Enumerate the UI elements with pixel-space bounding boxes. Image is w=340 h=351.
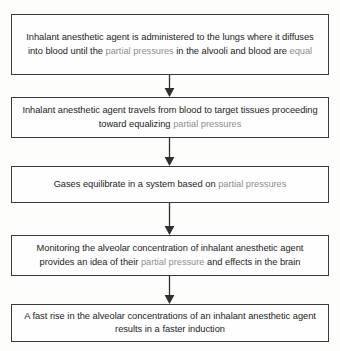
flow-node-1-text: Inhalant anesthetic agent is administere… <box>19 31 321 58</box>
highlighted-term: partial pressure <box>141 257 205 267</box>
flow-node-4: Monitoring the alveolar concentration of… <box>11 235 329 276</box>
flow-node-3: Gases equilibrate in a system based on p… <box>11 166 329 203</box>
arrow-connector-2 <box>165 138 175 166</box>
body-text: Gases equilibrate in a system based on <box>54 179 219 189</box>
highlighted-term: equal <box>290 46 313 56</box>
body-text: Inhalant anesthetic agent travels from b… <box>22 105 317 128</box>
arrow-connector-3 <box>165 203 175 235</box>
flow-node-4-text: Monitoring the alveolar concentration of… <box>19 242 321 269</box>
body-text: A fast rise in the alveolar concentratio… <box>24 311 316 334</box>
arrow-connector-1 <box>165 75 175 97</box>
body-text: in the alvooli and blood are <box>174 46 290 56</box>
flow-node-2-text: Inhalant anesthetic agent travels from b… <box>19 104 321 131</box>
arrow-connector-4 <box>165 276 175 304</box>
flow-node-5-text: A fast rise in the alveolar concentratio… <box>19 310 321 337</box>
flow-node-5: A fast rise in the alveolar concentratio… <box>11 304 329 342</box>
flowchart-diagram: Inhalant anesthetic agent is administere… <box>0 0 340 351</box>
flow-node-1: Inhalant anesthetic agent is administere… <box>11 14 329 75</box>
highlighted-term: partial pressures <box>218 179 286 189</box>
highlighted-term: partial pressures <box>173 119 241 129</box>
body-text: and effects in the brain <box>204 257 300 267</box>
flow-node-3-text: Gases equilibrate in a system based on p… <box>54 178 287 191</box>
highlighted-term: partial pressures <box>106 46 174 56</box>
flow-node-2: Inhalant anesthetic agent travels from b… <box>11 97 329 138</box>
